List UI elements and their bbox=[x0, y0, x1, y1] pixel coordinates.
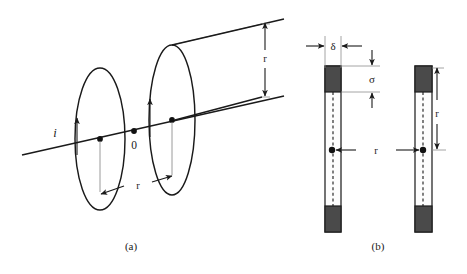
current-label-i: i bbox=[53, 126, 57, 140]
separation-dimension-vertical: r bbox=[262, 23, 270, 97]
panel-a-caption: (a) bbox=[125, 240, 138, 253]
left-bar bbox=[325, 66, 341, 232]
right-bar-midpoint-dot bbox=[420, 147, 426, 153]
separation-dimension-horizontal: r bbox=[336, 145, 419, 156]
right-coil-radius-arrow bbox=[152, 176, 172, 182]
panel-b-separation-label: r bbox=[374, 145, 378, 156]
lower-ruling-line bbox=[175, 97, 262, 120]
left-coil bbox=[75, 68, 125, 210]
gap-label-sigma: σ bbox=[369, 73, 375, 85]
panel-b-caption: (b) bbox=[372, 240, 385, 253]
panel-b-group: δ σ r r bbox=[306, 36, 446, 253]
left-bar-bottom-cap bbox=[325, 206, 341, 232]
upper-ruling-line bbox=[172, 19, 284, 45]
left-bar-top-cap bbox=[325, 66, 341, 92]
panel-b-height-label: r bbox=[435, 108, 439, 119]
left-bar-midpoint-dot bbox=[329, 147, 335, 153]
height-dimension-r: r bbox=[432, 68, 446, 150]
panel-a-radius-label: r bbox=[136, 180, 140, 191]
panel-a-group: r i 0 r (a) bbox=[22, 19, 284, 253]
left-coil-radius-arrow bbox=[101, 186, 124, 194]
figure-container: r i 0 r (a) bbox=[0, 0, 467, 274]
right-bar-top-cap bbox=[415, 66, 432, 92]
thickness-label-delta: δ bbox=[330, 40, 335, 52]
right-bar-bottom-cap bbox=[415, 206, 432, 232]
thickness-dimension-delta: δ bbox=[306, 36, 362, 68]
origin-dot bbox=[131, 128, 137, 134]
origin-label: 0 bbox=[131, 139, 137, 151]
gap-dimension-sigma: σ bbox=[341, 50, 380, 108]
figure-canvas: r i 0 r (a) bbox=[0, 0, 467, 274]
right-coil bbox=[149, 45, 195, 195]
right-bar bbox=[415, 66, 432, 232]
coil-axis-line bbox=[22, 96, 284, 155]
panel-a-height-label: r bbox=[263, 53, 267, 64]
